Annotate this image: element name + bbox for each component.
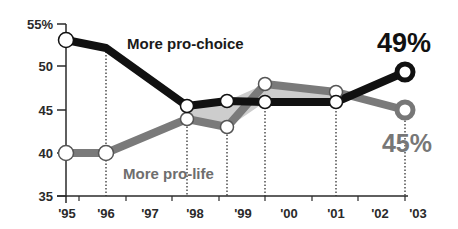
pro-life-end-value: 45% <box>382 129 432 157</box>
pro-choice-end-marker <box>397 64 413 80</box>
x-tick-98: '98 <box>186 206 204 221</box>
pro-life-end-marker <box>397 102 413 118</box>
x-tick-00: '00 <box>280 206 298 221</box>
x-tick-95: '95 <box>58 206 76 221</box>
y-tick-45: 45 <box>39 103 53 118</box>
x-tick-99: '99 <box>234 206 252 221</box>
x-axis: '95 '96 '97 '98 '99 '00 '01 '02 '03 <box>57 196 427 221</box>
pro-choice-label: More pro-choice <box>127 35 244 52</box>
opinion-trend-chart: 55% 50 45 40 35 '95 '96 '97 '98 '99 '00 … <box>0 0 458 229</box>
x-tick-03: '03 <box>409 206 427 221</box>
x-tick-96: '96 <box>97 206 115 221</box>
y-tick-40: 40 <box>39 146 53 161</box>
x-tick-02: '02 <box>371 206 389 221</box>
x-tick-97: '97 <box>141 206 159 221</box>
pro-choice-end-value: 49% <box>377 28 431 58</box>
pro-life-label: More pro-life <box>123 165 214 182</box>
x-tick-01: '01 <box>327 206 345 221</box>
y-tick-50: 50 <box>39 59 53 74</box>
y-tick-35: 35 <box>39 189 53 204</box>
y-tick-55: 55% <box>27 17 53 32</box>
